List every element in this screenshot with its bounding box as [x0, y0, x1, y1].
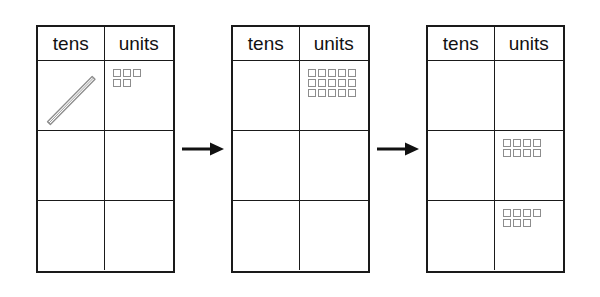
unit-square	[513, 219, 521, 227]
cell-tens	[428, 131, 496, 200]
arrow-right-glyph	[181, 139, 225, 159]
unit-square-row	[308, 79, 356, 87]
column-header-label: units	[119, 34, 159, 53]
column-header-label: tens	[53, 34, 89, 53]
cell-units	[300, 201, 368, 270]
table-1: tensunits	[36, 25, 175, 273]
header-cell-tens: tens	[38, 27, 106, 60]
unit-square	[513, 149, 521, 157]
table-header-row: tensunits	[233, 27, 368, 61]
unit-square	[523, 209, 531, 217]
unit-square	[338, 89, 346, 97]
cell-units	[300, 131, 368, 200]
unit-square-row	[113, 79, 141, 87]
unit-square	[318, 89, 326, 97]
header-cell-tens: tens	[233, 27, 301, 60]
unit-square-group	[495, 201, 541, 227]
unit-square-row	[503, 219, 541, 227]
diagram-canvas: tensunitstensunitstensunits	[0, 0, 600, 297]
cell-tens	[38, 201, 106, 270]
ten-rod	[38, 61, 105, 130]
column-header-label: units	[314, 34, 354, 53]
table-header-row: tensunits	[38, 27, 173, 61]
arrow-right-icon	[175, 139, 231, 159]
unit-square-row	[503, 139, 541, 147]
column-header-label: units	[509, 34, 549, 53]
unit-square-row	[308, 89, 356, 97]
cell-units	[495, 61, 563, 130]
table-body-row	[428, 201, 563, 270]
table-body-row	[428, 131, 563, 201]
table-3: tensunits	[426, 25, 565, 273]
unit-square	[308, 89, 316, 97]
unit-square-row	[503, 209, 541, 217]
unit-square	[308, 79, 316, 87]
cell-tens	[233, 201, 301, 270]
unit-square	[503, 149, 511, 157]
header-cell-units: units	[105, 27, 173, 60]
unit-square	[348, 79, 356, 87]
unit-square	[113, 79, 121, 87]
unit-square-group	[495, 131, 541, 157]
table-body-row	[38, 201, 173, 270]
unit-square	[133, 69, 141, 77]
unit-square	[348, 69, 356, 77]
cell-units	[105, 131, 173, 200]
table-2: tensunits	[231, 25, 370, 273]
arrow-right-glyph	[376, 139, 420, 159]
cell-tens	[428, 201, 496, 270]
unit-square	[328, 89, 336, 97]
table-body-row	[38, 131, 173, 201]
cell-units	[105, 201, 173, 270]
cell-units	[495, 131, 563, 200]
unit-square	[533, 209, 541, 217]
unit-square	[308, 69, 316, 77]
header-cell-units: units	[300, 27, 368, 60]
table-body-row	[428, 61, 563, 131]
unit-square	[503, 219, 511, 227]
column-header-label: tens	[248, 34, 284, 53]
unit-square	[318, 69, 326, 77]
unit-square	[348, 89, 356, 97]
unit-square	[523, 149, 531, 157]
cell-tens	[233, 131, 301, 200]
table-body-row	[233, 131, 368, 201]
ten-rod-icon	[38, 61, 105, 130]
unit-square-row	[503, 149, 541, 157]
cell-tens	[233, 61, 301, 130]
unit-square	[328, 79, 336, 87]
cell-tens	[428, 61, 496, 130]
cell-units	[495, 201, 563, 270]
unit-square	[523, 139, 531, 147]
unit-square	[533, 139, 541, 147]
unit-square	[523, 219, 531, 227]
arrow-right-icon	[370, 139, 426, 159]
cell-tens	[38, 131, 106, 200]
cell-units	[300, 61, 368, 130]
cell-units	[105, 61, 173, 130]
table-body-row	[233, 61, 368, 131]
unit-square	[513, 209, 521, 217]
cell-tens	[38, 61, 106, 130]
unit-square	[533, 149, 541, 157]
column-header-label: tens	[443, 34, 479, 53]
unit-square	[328, 69, 336, 77]
unit-square	[503, 209, 511, 217]
table-header-row: tensunits	[428, 27, 563, 61]
unit-square-row	[113, 69, 141, 77]
table-body-row	[38, 61, 173, 131]
unit-square	[338, 69, 346, 77]
unit-square	[123, 69, 131, 77]
header-cell-units: units	[495, 27, 563, 60]
unit-square	[123, 79, 131, 87]
unit-square-row	[308, 69, 356, 77]
table-body-row	[233, 201, 368, 270]
unit-square-group	[105, 61, 141, 87]
unit-square	[503, 139, 511, 147]
header-cell-tens: tens	[428, 27, 496, 60]
unit-square	[318, 79, 326, 87]
unit-square	[338, 79, 346, 87]
unit-square	[513, 139, 521, 147]
unit-square	[113, 69, 121, 77]
unit-square-group	[300, 61, 356, 97]
